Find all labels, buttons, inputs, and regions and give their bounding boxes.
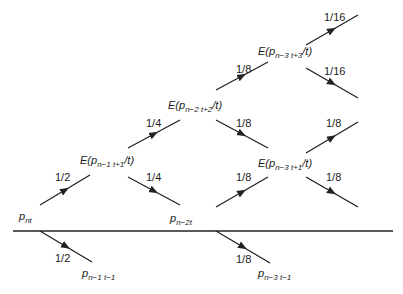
edge-label-1-8-down-top: 1/8 — [236, 118, 251, 129]
edge-label-1-2-up: 1/2 — [55, 172, 70, 183]
node-e-n3-t3: E(pn−3 t+3/t) — [258, 46, 312, 57]
node-e-n2-t2: E(pn−2 t+2/t) — [168, 100, 222, 111]
edge-label-1-8-up-mid: 1/8 — [236, 172, 251, 183]
edge-label-1-2-down: 1/2 — [55, 253, 70, 264]
edge-label-1-8-down-bottom: 1/8 — [236, 254, 251, 265]
node-p-n2t: pn−2t — [170, 213, 192, 224]
edge-label-1-16-down: 1/16 — [324, 66, 345, 77]
node-p-n3-t-1: pn−3 t−1 — [258, 268, 291, 279]
diagram-edges — [0, 0, 403, 294]
node-e-n1-t1: E(pn−1 t+1/t) — [80, 155, 134, 166]
probability-tree-diagram: pnt E(pn−1 t+1/t) pn−2t pn−1 t−1 E(pn−2 … — [0, 0, 403, 294]
node-p-n1-t-1: pn−1 t−1 — [82, 268, 115, 279]
node-e-n3-t1: E(pn−3 t+1/t) — [258, 158, 312, 169]
edge-label-1-16-up: 1/16 — [324, 12, 345, 23]
edge-label-1-8-down-right: 1/8 — [326, 172, 341, 183]
edge-label-1-4-up: 1/4 — [146, 118, 161, 129]
node-p-nt: pnt — [19, 211, 32, 222]
edge-label-1-8-up-right: 1/8 — [326, 118, 341, 129]
edge-label-1-4-down: 1/4 — [146, 172, 161, 183]
edge-label-1-8-up-top: 1/8 — [236, 64, 251, 75]
